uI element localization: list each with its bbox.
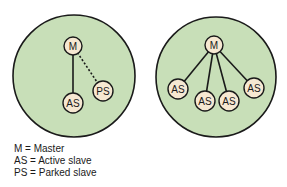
node-parked-slave: PS [93, 81, 113, 101]
node-label: AS [198, 96, 212, 107]
legend-item-active-slave: AS = Active slave [14, 155, 97, 167]
node-label: PS [96, 86, 110, 97]
legend-item-parked-slave: PS = Parked slave [14, 167, 97, 179]
node-label: AS [247, 83, 261, 94]
node-master: M [64, 37, 82, 55]
piconet-right: M AS AS AS AS [156, 17, 276, 137]
node-active-slave: AS [63, 93, 83, 113]
piconet-boundary [156, 17, 276, 137]
node-label: AS [171, 84, 185, 95]
piconet-boundary [13, 15, 135, 137]
node-active-slave: AS [219, 91, 239, 111]
node-active-slave: AS [244, 78, 264, 98]
legend-item-master: M = Master [14, 143, 97, 155]
node-active-slave: AS [195, 91, 215, 111]
node-active-slave: AS [168, 79, 188, 99]
node-label: M [69, 41, 77, 52]
node-master: M [205, 36, 223, 54]
legend: M = Master AS = Active slave PS = Parked… [14, 143, 97, 179]
node-label: AS [66, 98, 80, 109]
node-label: AS [222, 96, 236, 107]
node-label: M [210, 40, 218, 51]
piconet-left: M AS PS [13, 15, 135, 137]
